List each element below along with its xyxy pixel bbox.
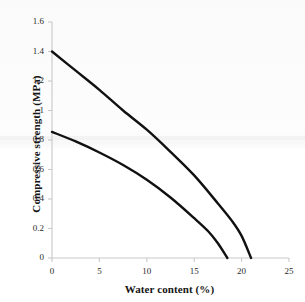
- x-tick-label-15: 15: [182, 266, 206, 276]
- x-tick-label-5: 5: [87, 266, 111, 276]
- series-line-upper: [52, 52, 251, 259]
- series-line-lower: [52, 132, 227, 258]
- y-tick-marks: [48, 22, 52, 258]
- y-axis-title: Compressive strength (MPa): [30, 24, 42, 264]
- x-tick-label-10: 10: [135, 266, 159, 276]
- x-axis-title: Water content (%): [0, 283, 305, 295]
- x-tick-marks: [52, 258, 289, 262]
- chart-screenshot: 1.6 1.4 1.2 1 0.8 0.6 0.4 0.2 0 0 5 10 1…: [0, 0, 305, 302]
- line-chart: 1.6 1.4 1.2 1 0.8 0.6 0.4 0.2 0 0 5 10 1…: [0, 0, 305, 302]
- x-tick-label-0: 0: [40, 266, 64, 276]
- x-tick-label-20: 20: [230, 266, 254, 276]
- x-tick-label-25: 25: [277, 266, 301, 276]
- plot-canvas: [0, 0, 305, 302]
